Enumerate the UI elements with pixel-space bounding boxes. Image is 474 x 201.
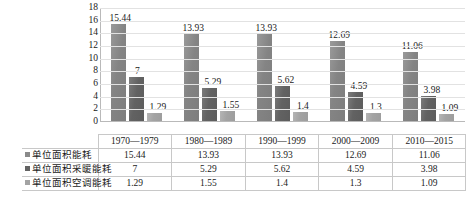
y-axis-tick-14: 14 [89,28,99,38]
y-axis-tick-16: 16 [89,16,99,26]
table-cell-0-4: 11.06 [392,149,466,163]
table-row: 单位面积空调能耗1.291.551.41.31.09 [22,177,466,191]
bar-2-2[interactable]: 1.4 [293,112,308,121]
table-cell-1-4: 3.98 [392,163,466,177]
gridline-12 [100,46,465,47]
y-axis-tick-18: 18 [89,3,99,13]
bar-slot-1: 5.62 [275,8,290,121]
gridline-16 [100,21,465,22]
table-cell-2-4: 1.09 [392,177,466,191]
bar-slot-2: 1.55 [220,8,235,121]
bar-2-1[interactable]: 1.55 [220,111,235,121]
table-col-header-2: 1990—1999 [245,135,319,149]
bar-0-0[interactable]: 15.44 [111,24,126,121]
y-axis-tick-8: 8 [93,66,98,76]
y-axis-tick-6: 6 [93,79,98,89]
gridline-4 [100,97,465,98]
y-axis-tick-12: 12 [89,41,99,51]
legend-label: 单位面积空调能耗 [32,178,112,188]
x-axis-line [100,121,465,122]
bar-group-0: 15.4471.29 [100,8,173,121]
table-cell-0-0: 15.44 [98,149,172,163]
bar-group-3: 12.694.591.3 [319,8,392,121]
legend-item-1[interactable]: 单位面积采暖能耗 [22,163,98,177]
bar-groups: 15.4471.2913.935.291.5513.935.621.412.69… [100,8,465,121]
bar-slot-1: 7 [129,8,144,121]
legend-swatch-icon [25,166,30,171]
bar-value-label: 13.93 [183,23,204,33]
bar-1-2[interactable]: 5.62 [275,86,290,121]
data-table: 1970—19791980—19891990—19992000—20092010… [22,134,466,191]
bar-slot-0: 15.44 [111,8,126,121]
table-cell-2-1: 1.55 [172,177,246,191]
legend-item-0[interactable]: 单位面积能耗 [22,149,98,163]
bar-value-label: 12.69 [329,30,350,40]
bar-slot-2: 1.4 [293,8,308,121]
bar-slot-2: 1.29 [147,8,162,121]
bar-2-3[interactable]: 1.3 [366,113,381,121]
bar-value-label: 1.29 [150,102,167,112]
bar-1-1[interactable]: 5.29 [202,88,217,121]
bar-slot-1: 5.29 [202,8,217,121]
y-axis-tick-10: 10 [89,54,99,64]
bar-slot-0: 11.06 [403,8,418,121]
bar-value-label: 3.98 [424,85,441,95]
bar-slot-1: 4.59 [348,8,363,121]
table-cell-0-3: 12.69 [319,149,393,163]
legend-swatch-icon [25,152,30,157]
table-cell-2-3: 1.3 [319,177,393,191]
table-header-row: 1970—19791980—19891990—19992000—20092010… [22,135,466,149]
bar-value-label: 13.93 [256,23,277,33]
y-axis: 181614121086420 [82,8,98,122]
gridline-10 [100,59,465,60]
legend-item-2[interactable]: 单位面积空调能耗 [22,177,98,191]
bar-slot-0: 13.93 [184,8,199,121]
table-col-header-1: 1980—1989 [172,135,246,149]
bar-0-4[interactable]: 11.06 [403,52,418,121]
bar-value-label: 1.09 [442,103,459,113]
bar-group-2: 13.935.621.4 [246,8,319,121]
chart-figure: 181614121086420 15.4471.2913.935.291.551… [0,0,474,201]
bar-group-1: 13.935.291.55 [173,8,246,121]
gridline-14 [100,33,465,34]
legend-swatch-icon [25,180,30,185]
bar-slot-0: 13.93 [257,8,272,121]
y-axis-tick-0: 0 [93,117,98,127]
bar-value-label: 1.3 [370,102,382,112]
bar-slot-1: 3.98 [421,8,436,121]
table-cell-1-1: 5.29 [172,163,246,177]
table-row: 单位面积能耗15.4413.9313.9312.6911.06 [22,149,466,163]
table-body: 单位面积能耗15.4413.9313.9312.6911.06单位面积采暖能耗7… [22,149,466,191]
y-axis-tick-4: 4 [93,92,98,102]
table-cell-0-2: 13.93 [245,149,319,163]
table-cell-1-2: 5.62 [245,163,319,177]
gridline-6 [100,84,465,85]
table-col-header-0: 1970—1979 [98,135,172,149]
bar-2-4[interactable]: 1.09 [439,114,454,121]
plot-area: 181614121086420 15.4471.2913.935.291.551… [0,8,474,136]
bar-group-4: 11.063.981.09 [392,8,465,121]
bar-slot-2: 1.3 [366,8,381,121]
grid-area: 15.4471.2913.935.291.5513.935.621.412.69… [100,8,465,122]
gridline-8 [100,71,465,72]
gridline-18 [100,8,465,9]
bar-2-0[interactable]: 1.29 [147,113,162,121]
table-col-header-4: 2010—2015 [392,135,466,149]
gridline-2 [100,109,465,110]
table-row: 单位面积采暖能耗75.295.624.593.98 [22,163,466,177]
y-axis-tick-2: 2 [93,104,98,114]
bar-value-label: 4.59 [351,81,368,91]
table-col-header-3: 2000—2009 [319,135,393,149]
legend-label: 单位面积采暖能耗 [32,164,112,174]
bar-value-label: 5.29 [205,77,222,87]
legend-label: 单位面积能耗 [32,150,92,160]
bar-slot-2: 1.09 [439,8,454,121]
table-cell-0-1: 13.93 [172,149,246,163]
bar-slot-0: 12.69 [330,8,345,121]
table-corner-cell [22,135,98,149]
table-cell-2-2: 1.4 [245,177,319,191]
table-cell-1-3: 4.59 [319,163,393,177]
